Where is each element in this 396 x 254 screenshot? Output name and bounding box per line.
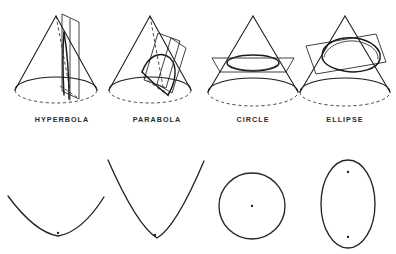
cutting-plane-vertical: [62, 14, 79, 99]
cone-hyperbola: [15, 14, 97, 103]
curve-hyperbola: [8, 196, 104, 236]
hyperbola-branch-path: [8, 196, 104, 236]
cone-base-back-arc: [208, 92, 298, 106]
cone-base-front-arc: [300, 78, 390, 92]
cone-parabola: [109, 16, 191, 103]
cone-slant-left: [208, 16, 253, 92]
label-parabola: PARABOLA: [133, 115, 182, 124]
cone-circle: [208, 16, 298, 106]
ellipse-focus-dot-upper: [347, 171, 349, 173]
parabola-focus-dot: [154, 234, 156, 236]
cutting-plane-tilted: [306, 34, 386, 74]
cutting-plane-horizontal: [212, 58, 294, 72]
parabola-path: [108, 160, 204, 238]
cone-base-front-arc: [208, 78, 298, 92]
circle-center-dot: [251, 205, 253, 207]
cone-base-back-arc: [300, 92, 390, 106]
label-circle: CIRCLE: [236, 115, 269, 124]
cone-base-back-arc: [15, 90, 97, 103]
curve-parabola: [108, 160, 204, 238]
conic-sections-figure: HYPERBOLA PARABOLA CIRCLE: [0, 0, 396, 254]
curve-circle: [219, 173, 285, 239]
cone-base-back-arc: [109, 90, 191, 103]
label-ellipse: ELLIPSE: [326, 115, 363, 124]
label-hyperbola: HYPERBOLA: [35, 115, 90, 124]
cone-slant-right: [253, 16, 298, 92]
cone-ellipse: [300, 16, 390, 106]
curve-ellipse: [321, 160, 375, 248]
ellipse-path: [321, 160, 375, 248]
ellipse-focus-dot-lower: [347, 236, 349, 238]
hyperbola-focus-dot: [57, 232, 59, 234]
cone-base-front-arc: [15, 77, 97, 90]
